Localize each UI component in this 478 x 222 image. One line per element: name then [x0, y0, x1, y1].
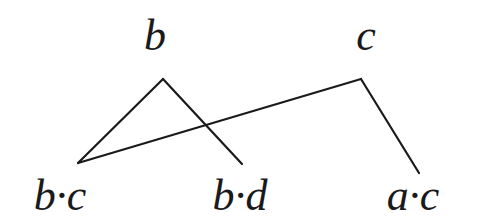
edge-b-to-bd — [163, 79, 242, 164]
node-b: b — [144, 14, 166, 58]
edge-c-to-ac — [361, 79, 419, 173]
node-b-dot-d: b·d — [213, 174, 268, 218]
node-a-dot-c: a·c — [387, 174, 440, 218]
diagram-canvas: b c b·c b·d a·c — [0, 0, 478, 222]
node-c: c — [356, 14, 376, 58]
node-b-dot-c: b·c — [34, 174, 87, 218]
